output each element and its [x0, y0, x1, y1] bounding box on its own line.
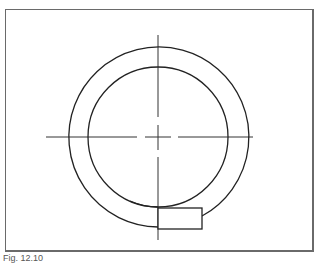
tab-rectangle — [158, 208, 202, 229]
figure-caption: Fig. 12.10 — [3, 254, 43, 263]
